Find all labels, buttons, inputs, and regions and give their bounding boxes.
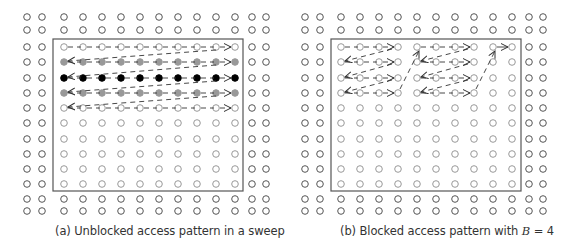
grid-point [338, 151, 345, 158]
ghost-point [540, 75, 547, 82]
grid-point [232, 105, 239, 112]
access-arrow [476, 51, 495, 89]
access-arrow [421, 49, 468, 61]
ghost-point [156, 27, 163, 34]
ghost-point [540, 44, 547, 51]
ghost-point [471, 196, 478, 203]
access-arrow [345, 49, 392, 61]
ghost-point [175, 27, 182, 34]
grid-point [137, 166, 144, 173]
grid-point [509, 151, 516, 158]
ghost-point [232, 196, 239, 203]
ghost-point [357, 14, 364, 21]
ghost-point [302, 14, 309, 21]
ghost-point [39, 27, 46, 34]
grid-point [213, 120, 220, 127]
caption-b-variable: B [522, 224, 530, 238]
ghost-point [317, 44, 324, 51]
grid-point [61, 105, 68, 112]
ghost-point [526, 136, 533, 143]
ghost-point [317, 27, 324, 34]
panel-unblocked-sweep [24, 14, 270, 215]
grid-point [414, 75, 421, 82]
ghost-point [263, 166, 270, 173]
ghost-point [471, 27, 478, 34]
ghost-point [39, 151, 46, 158]
ghost-point [213, 14, 220, 21]
grid-point [232, 120, 239, 127]
grid-point [471, 44, 478, 51]
access-arrow [345, 64, 392, 77]
ghost-point [376, 196, 383, 203]
ghost-point [317, 14, 324, 21]
grid-point [452, 136, 459, 143]
ghost-point [263, 59, 270, 66]
grid-point [490, 90, 497, 97]
grid-point [509, 136, 516, 143]
grid-point [433, 136, 440, 143]
ghost-point [39, 44, 46, 51]
ghost-point [213, 196, 220, 203]
ghost-point [302, 27, 309, 34]
grid-point [194, 151, 201, 158]
ghost-point [317, 120, 324, 127]
ghost-point [249, 44, 256, 51]
ghost-point [249, 166, 256, 173]
ghost-point [526, 196, 533, 203]
grid-point [376, 166, 383, 173]
grid-point [175, 181, 182, 188]
ghost-point [526, 208, 533, 215]
ghost-point [249, 75, 256, 82]
ghost-point [540, 105, 547, 112]
ghost-point [99, 208, 106, 215]
ghost-point [194, 208, 201, 215]
ghost-point [414, 196, 421, 203]
ghost-point [39, 136, 46, 143]
grid-point [137, 181, 144, 188]
grid-point [452, 166, 459, 173]
grid-point [232, 181, 239, 188]
ghost-point [490, 27, 497, 34]
ghost-point [249, 90, 256, 97]
ghost-point [249, 120, 256, 127]
ghost-point [24, 120, 31, 127]
grid-point [376, 151, 383, 158]
ghost-point [137, 14, 144, 21]
ghost-point [263, 136, 270, 143]
ghost-point [118, 196, 125, 203]
ghost-point [24, 105, 31, 112]
grid-point [490, 59, 497, 66]
ghost-point [39, 120, 46, 127]
grid-point [213, 151, 220, 158]
grid-point [232, 151, 239, 158]
ghost-point [263, 14, 270, 21]
ghost-point [263, 27, 270, 34]
grid-point [471, 59, 478, 66]
ghost-point [302, 208, 309, 215]
grid-point [433, 120, 440, 127]
ghost-point [156, 14, 163, 21]
grid-point [395, 44, 402, 51]
ghost-point [263, 75, 270, 82]
grid-point [471, 166, 478, 173]
grid-point [338, 120, 345, 127]
ghost-point [61, 208, 68, 215]
ghost-point [24, 14, 31, 21]
ghost-point [80, 14, 87, 21]
ghost-point [24, 166, 31, 173]
ghost-point [99, 196, 106, 203]
ghost-point [317, 181, 324, 188]
ghost-point [302, 105, 309, 112]
grid-point [156, 181, 163, 188]
grid-point [118, 136, 125, 143]
ghost-point [39, 196, 46, 203]
grid-point [80, 166, 87, 173]
grid-point [471, 136, 478, 143]
grid-point [338, 44, 345, 51]
caption-b-prefix: (b) Blocked access pattern with [340, 224, 522, 238]
grid-point [414, 59, 421, 66]
grid-point [509, 166, 516, 173]
grid-point [509, 44, 516, 51]
grid-point [490, 166, 497, 173]
grid-point [357, 105, 364, 112]
